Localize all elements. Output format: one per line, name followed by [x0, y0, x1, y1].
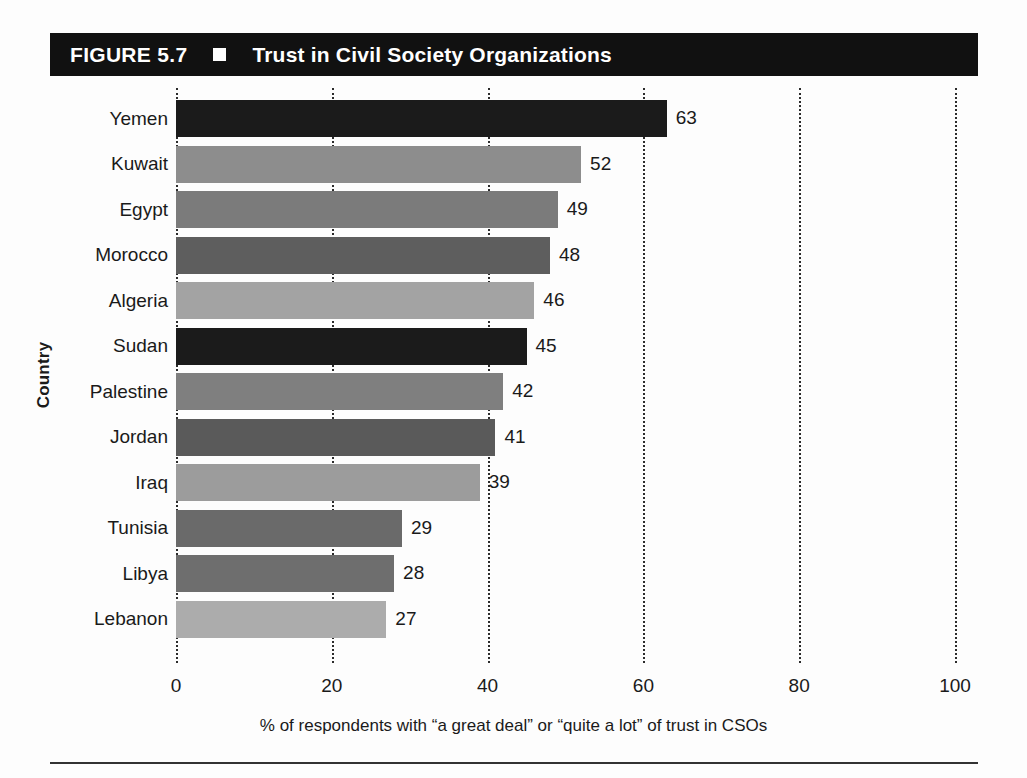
bar-value-label: 29: [411, 517, 432, 539]
bar-value-label: 28: [403, 562, 424, 584]
bar-row[interactable]: Kuwait52: [0, 142, 1027, 187]
category-label: Lebanon: [0, 608, 168, 630]
category-label: Algeria: [0, 290, 168, 312]
category-label: Jordan: [0, 426, 168, 448]
category-label: Kuwait: [0, 153, 168, 175]
figure-title-banner: FIGURE 5.7 Trust in Civil Society Organi…: [50, 33, 978, 76]
category-label: Egypt: [0, 199, 168, 221]
bar[interactable]: [176, 282, 534, 319]
figure-container: FIGURE 5.7 Trust in Civil Society Organi…: [0, 0, 1027, 778]
bar-row[interactable]: Palestine42: [0, 369, 1027, 414]
x-axis: 020406080100: [0, 663, 1027, 713]
bar-value-label: 42: [512, 380, 533, 402]
bar-row[interactable]: Iraq39: [0, 460, 1027, 505]
bar[interactable]: [176, 146, 581, 183]
bar-row[interactable]: Tunisia29: [0, 506, 1027, 551]
x-tick-label-40: 40: [477, 675, 498, 697]
bar-value-label: 39: [489, 471, 510, 493]
bar-value-label: 48: [559, 244, 580, 266]
category-label: Iraq: [0, 472, 168, 494]
bar[interactable]: [176, 237, 550, 274]
bar-row[interactable]: Libya28: [0, 551, 1027, 596]
bar-row[interactable]: Lebanon27: [0, 597, 1027, 642]
category-label: Yemen: [0, 108, 168, 130]
x-tick-label-20: 20: [321, 675, 342, 697]
bar-value-label: 49: [567, 198, 588, 220]
x-tick-label-60: 60: [633, 675, 654, 697]
bar[interactable]: [176, 555, 394, 592]
bar-value-label: 27: [395, 608, 416, 630]
bar[interactable]: [176, 601, 386, 638]
category-label: Sudan: [0, 335, 168, 357]
bar[interactable]: [176, 373, 503, 410]
category-label: Palestine: [0, 381, 168, 403]
figure-title: Trust in Civil Society Organizations: [252, 43, 612, 67]
bar-value-label: 46: [543, 289, 564, 311]
bottom-divider: [50, 762, 978, 764]
plot-area: Country Yemen63Kuwait52Egypt49Morocco48A…: [0, 88, 1027, 663]
x-tick-label-100: 100: [939, 675, 971, 697]
bar-value-label: 45: [536, 335, 557, 357]
bar-row[interactable]: Egypt49: [0, 187, 1027, 232]
bar-row[interactable]: Yemen63: [0, 96, 1027, 141]
category-label: Morocco: [0, 244, 168, 266]
x-axis-caption: % of respondents with “a great deal” or …: [0, 716, 1027, 736]
figure-number: FIGURE 5.7: [70, 43, 187, 67]
bar[interactable]: [176, 100, 667, 137]
filled-square-icon: [213, 48, 226, 61]
category-label: Libya: [0, 563, 168, 585]
bar-value-label: 41: [504, 426, 525, 448]
category-label: Tunisia: [0, 517, 168, 539]
bar-row[interactable]: Algeria46: [0, 278, 1027, 323]
bar-row[interactable]: Morocco48: [0, 233, 1027, 278]
bar-row[interactable]: Sudan45: [0, 324, 1027, 369]
bar-value-label: 52: [590, 153, 611, 175]
bar[interactable]: [176, 510, 402, 547]
bar-rows: Yemen63Kuwait52Egypt49Morocco48Algeria46…: [0, 88, 1027, 663]
bar-value-label: 63: [676, 107, 697, 129]
bar-row[interactable]: Jordan41: [0, 415, 1027, 460]
x-tick-label-80: 80: [789, 675, 810, 697]
bar[interactable]: [176, 328, 527, 365]
bar[interactable]: [176, 419, 495, 456]
bar[interactable]: [176, 464, 480, 501]
x-tick-label-0: 0: [171, 675, 182, 697]
bar[interactable]: [176, 191, 558, 228]
